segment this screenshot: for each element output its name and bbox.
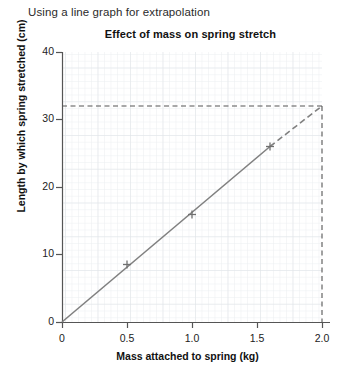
major-gridlines [62,52,322,322]
line-chart: Length by which spring stretched (cm) Ma… [0,0,345,376]
plot-area [0,0,345,376]
